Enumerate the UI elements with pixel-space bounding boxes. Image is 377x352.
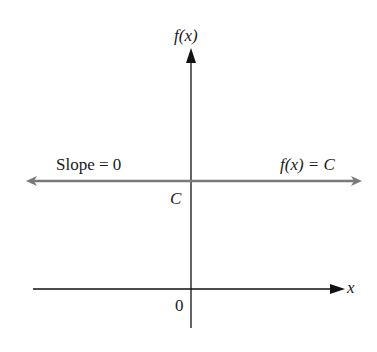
y-axis-label: f(x) xyxy=(174,27,198,44)
x-axis-arrow-icon xyxy=(330,284,345,294)
y-axis-arrow-icon xyxy=(186,48,196,63)
y-axis xyxy=(186,48,196,328)
origin-label: 0 xyxy=(175,297,184,314)
constant-line xyxy=(26,176,362,186)
x-axis xyxy=(33,284,345,294)
equation-label: f(x) = C xyxy=(280,156,335,173)
x-axis-label: x xyxy=(347,279,355,296)
intercept-label: C xyxy=(170,190,181,207)
diagram-canvas xyxy=(0,0,377,352)
slope-label: Slope = 0 xyxy=(56,156,121,173)
